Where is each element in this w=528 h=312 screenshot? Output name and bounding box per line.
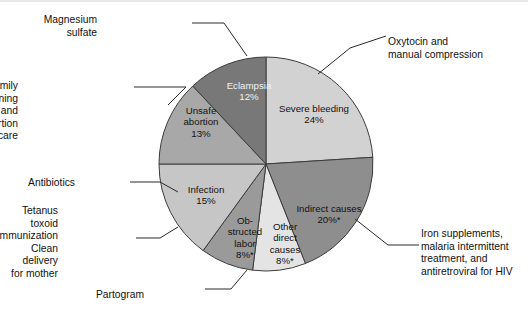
tetanus-leader [136, 227, 178, 238]
oxytocin-leader [318, 36, 386, 74]
partogram-leader [205, 270, 247, 289]
annotation-obstructed-labor: Partogram [96, 289, 144, 302]
annotation-infection: Antibiotics [28, 177, 75, 190]
annotation-indirect-causes: Iron supplements, malaria intermittent t… [421, 228, 513, 278]
annotation-severe-bleeding: Oxytocin and manual compression [388, 36, 483, 61]
pie-chart-figure: Severe bleeding24%Indirect causes20%*Oth… [0, 0, 528, 312]
annotation-unsafe-abortion: Family planning and postabortion care [0, 80, 18, 143]
magnesium-leader [192, 23, 247, 56]
annotation-eclampsia: Magnesium sulfate [44, 14, 97, 39]
annotation-infection-2: Tetanus toxoid immunization Clean delive… [0, 205, 58, 281]
iron-leader [355, 219, 419, 245]
